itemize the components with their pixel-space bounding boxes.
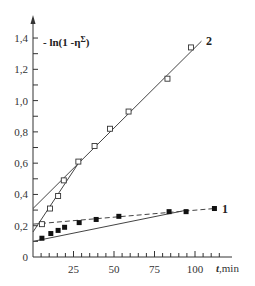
data-point-series-1 — [94, 217, 99, 222]
y-tick-label: 0,4 — [14, 188, 28, 200]
data-point-series-1 — [212, 206, 217, 211]
data-point-series-1 — [77, 220, 82, 225]
data-point-series-1 — [56, 228, 61, 233]
x-tick-label: 50 — [109, 263, 121, 275]
kinetics-chart: 00,20,40,60,81,01,21,4255075100 - ln(1 -… — [0, 0, 255, 286]
x-tick-label: 25 — [68, 263, 80, 275]
fit-line — [33, 210, 187, 241]
data-point-series-2 — [107, 126, 112, 131]
y-tick-label: 1,0 — [14, 95, 28, 107]
y-tick-label: 1,4 — [14, 32, 28, 44]
data-point-series-1 — [167, 209, 172, 214]
data-points — [39, 45, 217, 241]
y-axis-arrow-icon — [31, 15, 36, 24]
y-tick-label: 0,2 — [14, 220, 28, 232]
data-point-series-2 — [76, 159, 81, 164]
data-point-series-1 — [62, 225, 67, 230]
data-point-series-1 — [48, 231, 53, 236]
data-point-series-2 — [61, 178, 66, 183]
y-tick-label: 0 — [23, 251, 29, 263]
x-axis-label: t,min — [216, 262, 239, 274]
data-point-series-2 — [48, 206, 53, 211]
data-point-series-2 — [165, 76, 170, 81]
y-axis-label: - ln(1 -ηΣ) — [43, 35, 90, 49]
data-point-series-1 — [39, 236, 44, 241]
x-tick-label: 75 — [149, 263, 161, 275]
axes: 00,20,40,60,81,01,21,4255075100 — [14, 15, 232, 275]
data-point-series-2 — [92, 143, 97, 148]
data-point-series-2 — [188, 45, 193, 50]
data-point-series-2 — [39, 222, 44, 227]
y-tick-label: 0,6 — [14, 157, 28, 169]
data-point-series-1 — [184, 209, 189, 214]
series-2-label: 2 — [206, 34, 212, 48]
x-tick-label: 100 — [187, 263, 204, 275]
series-1-label: 1 — [222, 202, 228, 216]
data-point-series-2 — [126, 109, 131, 114]
y-tick-label: 0,8 — [14, 126, 28, 138]
data-point-series-2 — [56, 194, 61, 199]
fit-line — [33, 41, 201, 208]
y-tick-label: 1,2 — [14, 63, 28, 75]
data-point-series-1 — [116, 214, 121, 219]
labels: - ln(1 -ηΣ) t,min 12 — [43, 34, 239, 274]
